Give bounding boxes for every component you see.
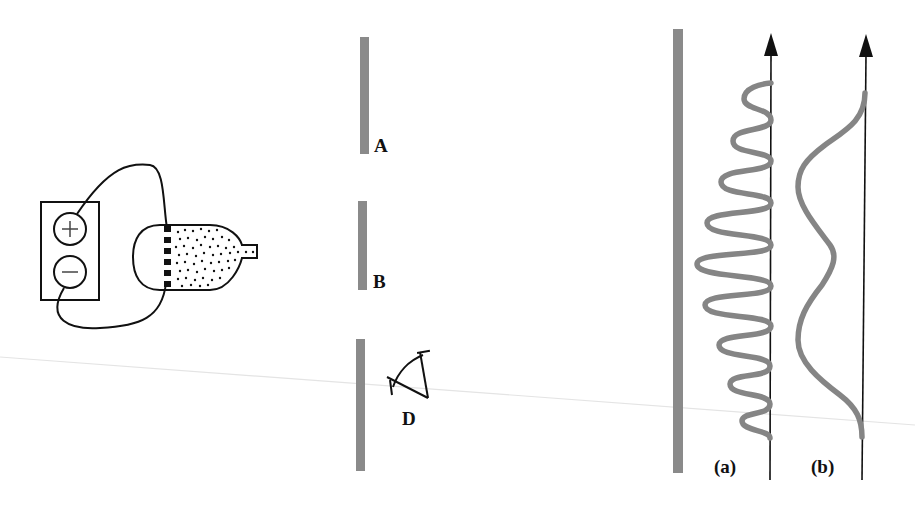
detection-screen — [673, 29, 683, 473]
barrier-segment-middle — [358, 201, 367, 290]
pattern-a-label: (a) — [714, 457, 736, 476]
electron-gun — [133, 225, 257, 290]
detector-icon — [387, 351, 430, 398]
barrier-segment-bottom — [356, 339, 365, 471]
pattern-b-label: (b) — [811, 457, 834, 476]
scan-line — [0, 357, 915, 425]
lower-wire — [57, 283, 166, 328]
double-slit-diagram: A B D (a) (b) — [0, 0, 915, 514]
gun-nozzle — [242, 245, 257, 258]
upper-wire — [77, 165, 167, 228]
two-hump-pattern-curve — [798, 93, 865, 437]
diagram-canvas — [0, 0, 915, 514]
arrow-up-icon — [764, 33, 778, 56]
slit-barrier — [356, 37, 369, 471]
slit-a-label: A — [374, 136, 388, 155]
interference-pattern-curve — [697, 83, 771, 438]
slit-b-label: B — [373, 272, 386, 291]
arrow-up-icon — [859, 34, 873, 57]
detector-d-label: D — [402, 409, 416, 428]
filament — [164, 226, 171, 287]
battery — [41, 202, 99, 300]
barrier-segment-top — [360, 37, 369, 154]
